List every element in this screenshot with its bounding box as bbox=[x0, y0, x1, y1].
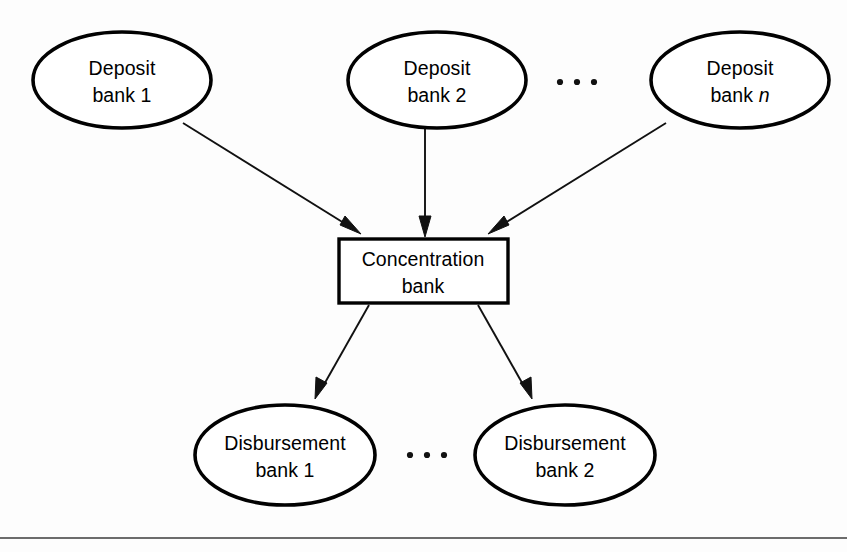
disbursement-bank-2-label-line2: bank 2 bbox=[535, 459, 594, 481]
edge-deposit2-to-concentration bbox=[419, 128, 431, 237]
edge-concentration-to-disbursement2 bbox=[478, 305, 532, 399]
disbursement-bank-2-label-line1: Disbursement bbox=[504, 432, 626, 454]
concentration-bank-label-line1: Concentration bbox=[362, 248, 485, 270]
deposit-bank-n-label-line2: bank n bbox=[710, 84, 769, 106]
node-concentration-bank[interactable]: Concentration bank bbox=[339, 239, 508, 303]
disbursement-bank-1-label-line2: bank 1 bbox=[255, 459, 314, 481]
deposit-bank-2-label-line2: bank 2 bbox=[407, 84, 466, 106]
deposit-bank-n-label-prefix: bank bbox=[710, 84, 758, 106]
node-deposit-bank-n[interactable]: Deposit bank n bbox=[651, 32, 829, 128]
node-deposit-bank-1[interactable]: Deposit bank 1 bbox=[33, 32, 211, 128]
deposit-bank-1-label-line2: bank 1 bbox=[92, 84, 151, 106]
concentration-bank-label-line2: bank bbox=[402, 275, 445, 297]
deposit-bank-1-label-line1: Deposit bbox=[89, 57, 156, 79]
deposit-bank-n-label-line1: Deposit bbox=[707, 57, 774, 79]
diagram-canvas: Deposit bank 1 Deposit bank 2 Deposit ba… bbox=[0, 0, 847, 552]
disbursement-bank-1-label-line1: Disbursement bbox=[224, 432, 346, 454]
figure-container: Deposit bank 1 Deposit bank 2 Deposit ba… bbox=[0, 0, 847, 552]
deposit-bank-n-label-italic-n: n bbox=[759, 84, 770, 106]
node-disbursement-bank-1[interactable]: Disbursement bank 1 bbox=[195, 405, 375, 505]
edge-concentration-to-disbursement1 bbox=[315, 305, 369, 399]
edge-depositn-to-concentration bbox=[488, 123, 666, 234]
top-row-ellipsis bbox=[557, 79, 597, 85]
deposit-bank-2-label-line1: Deposit bbox=[404, 57, 471, 79]
node-disbursement-bank-2[interactable]: Disbursement bank 2 bbox=[475, 405, 655, 505]
edge-deposit1-to-concentration bbox=[183, 123, 361, 234]
node-deposit-bank-2[interactable]: Deposit bank 2 bbox=[348, 32, 526, 128]
bottom-row-ellipsis bbox=[407, 452, 447, 458]
